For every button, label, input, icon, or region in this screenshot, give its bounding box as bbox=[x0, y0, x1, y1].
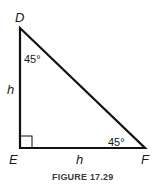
side-label-de: h bbox=[7, 82, 14, 97]
right-triangle-diagram: D E F h h 45° 45° FIGURE 17.29 bbox=[0, 0, 161, 186]
vertex-label-e: E bbox=[9, 152, 18, 167]
side-label-ef: h bbox=[76, 152, 83, 167]
triangle-def bbox=[20, 28, 145, 148]
vertex-label-d: D bbox=[15, 10, 24, 25]
angle-label-d: 45° bbox=[24, 53, 41, 65]
figure-caption: FIGURE 17.29 bbox=[52, 172, 113, 182]
angle-label-f: 45° bbox=[108, 136, 125, 148]
vertex-label-f: F bbox=[141, 152, 150, 167]
right-angle-marker bbox=[20, 136, 32, 148]
